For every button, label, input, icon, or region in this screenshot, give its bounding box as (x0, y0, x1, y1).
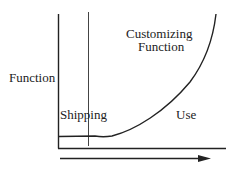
y-axis-label: Function (9, 70, 56, 85)
arrowhead-icon (198, 155, 211, 162)
function-over-time-diagram: Function Customizing Function Shipping U… (0, 0, 238, 176)
shipping-label: Shipping (60, 107, 107, 122)
use-label: Use (176, 107, 196, 122)
customizing-label-line2: Function (138, 39, 185, 54)
